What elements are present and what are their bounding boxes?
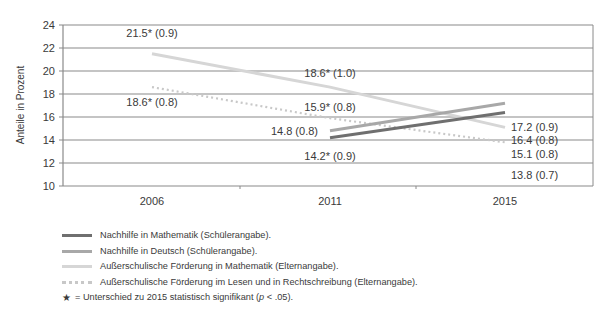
y-tick-label: 22 [43, 42, 55, 54]
data-label: 18.6* (1.0) [304, 67, 355, 79]
legend-item-nachhilfe-deutsch: Nachhilfe in Deutsch (Schülerangabe). [62, 244, 418, 260]
data-label: 21.5* (0.9) [126, 27, 177, 39]
y-tick-label: 20 [43, 65, 55, 77]
legend-swatch [62, 234, 92, 237]
significance-note: ★ = Unterschied zu 2015 statistisch sign… [62, 290, 418, 306]
data-label: 15.1 (0.8) [511, 148, 558, 160]
legend-label: Außerschulische Förderung im Lesen und i… [100, 275, 418, 291]
series-line [152, 54, 505, 128]
y-axis-title: Anteile in Prozent [15, 66, 26, 145]
x-tick-label: 2011 [318, 195, 342, 207]
legend-item-foerderung-lesen: Außerschulische Förderung im Lesen und i… [62, 275, 418, 291]
data-label: 14.2* (0.9) [304, 150, 355, 162]
legend: Nachhilfe in Mathematik (Schülerangabe).… [62, 228, 418, 306]
x-axis-labels: 200620112015 [140, 195, 517, 207]
data-label: 17.2 (0.9) [511, 121, 558, 133]
data-label: 18.6* (0.8) [126, 96, 177, 108]
line-chart: 1012141618202224 Anteile in Prozent 2006… [0, 0, 610, 215]
legend-swatch [62, 281, 92, 284]
legend-item-nachhilfe-mathematik: Nachhilfe in Mathematik (Schülerangabe). [62, 228, 418, 244]
y-tick-label: 16 [43, 111, 55, 123]
data-label: 16.4 (0.8) [511, 134, 558, 146]
data-label: 14.8 (0.8) [271, 125, 318, 137]
legend-label: Nachhilfe in Mathematik (Schülerangabe). [100, 228, 271, 244]
x-tick-label: 2006 [140, 195, 164, 207]
data-label: 15.9* (0.8) [304, 101, 355, 113]
star-icon: ★ [62, 290, 71, 306]
y-tick-label: 24 [43, 19, 55, 31]
legend-swatch [62, 250, 92, 253]
note-text: = Unterschied zu 2015 statistisch signif… [75, 290, 293, 306]
y-tick-label: 14 [43, 134, 55, 146]
y-tick-label: 12 [43, 157, 55, 169]
y-tick-label: 18 [43, 88, 55, 100]
x-tick-label: 2015 [493, 195, 517, 207]
data-label: 13.8 (0.7) [511, 169, 558, 181]
legend-swatch [62, 265, 92, 268]
legend-item-foerderung-mathematik: Außerschulische Förderung in Mathematik … [62, 259, 418, 275]
legend-label: Nachhilfe in Deutsch (Schülerangabe). [100, 244, 257, 260]
legend-label: Außerschulische Förderung in Mathematik … [100, 259, 338, 275]
y-tick-label: 10 [43, 180, 55, 192]
y-axis-ticks: 1012141618202224 [43, 19, 55, 192]
